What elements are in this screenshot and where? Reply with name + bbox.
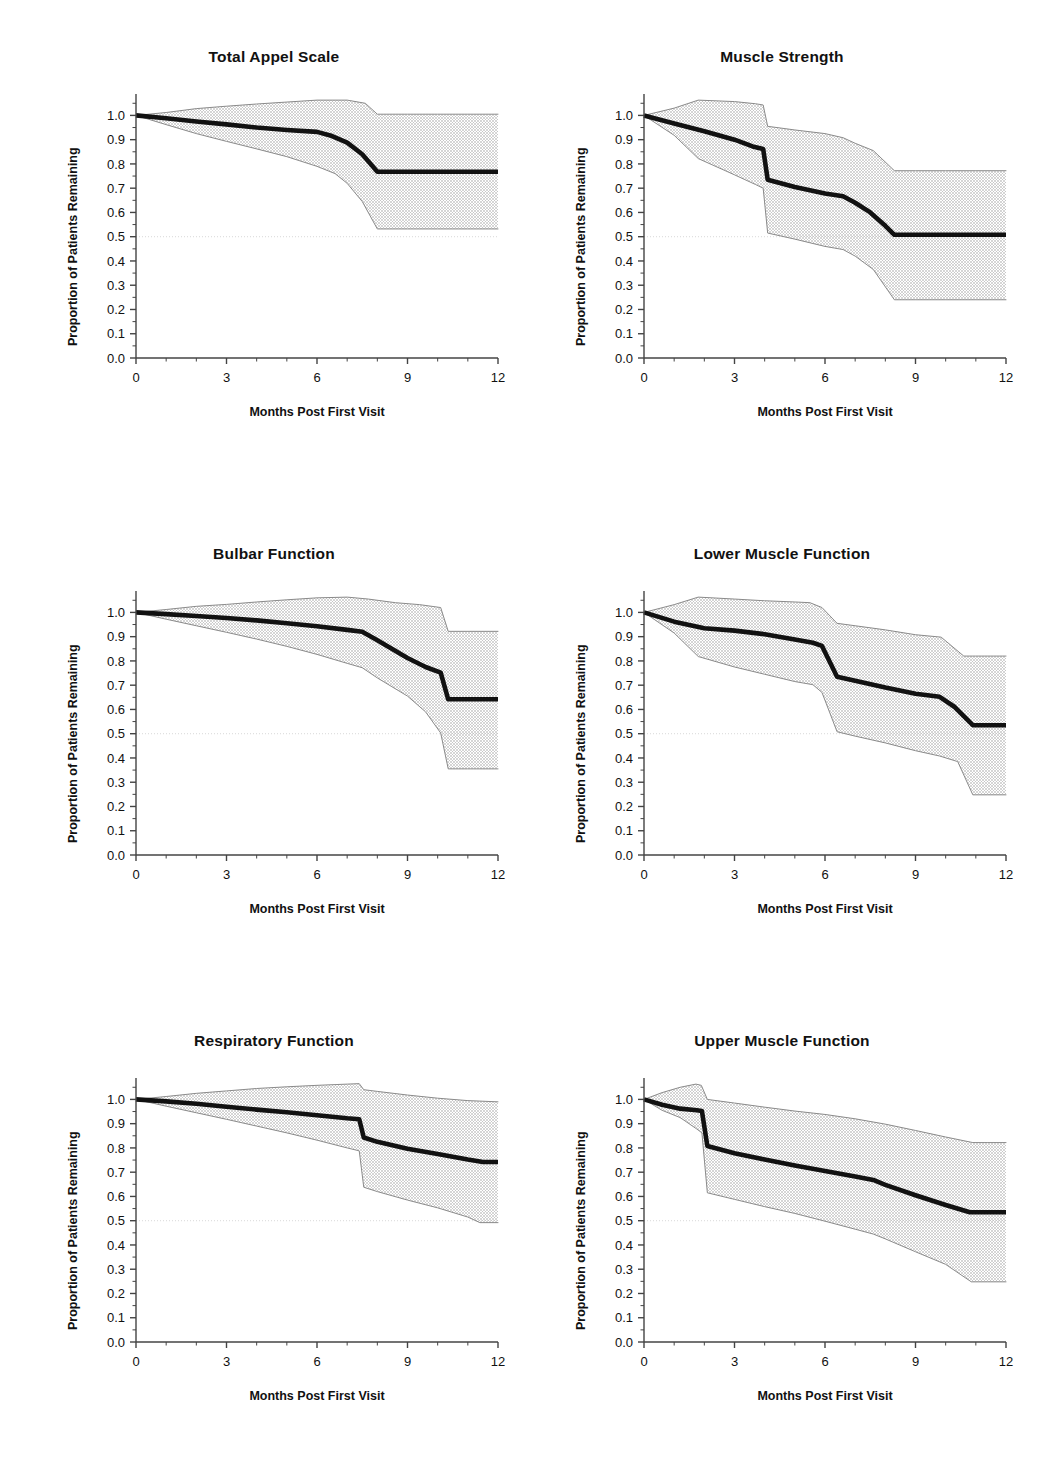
chart-panel-bulbar-function: Bulbar FunctionProportion of Patients Re… [24,545,524,965]
y-tick-label-muscle-strength-7: 0.7 [615,181,633,196]
y-tick-label-total-appel-scale-1: 0.1 [107,326,125,341]
y-tick-label-bulbar-function-7: 0.7 [107,678,125,693]
x-tick-label-bulbar-function-2: 6 [313,867,320,882]
y-tick-label-respiratory-function-4: 0.4 [107,1238,125,1253]
x-tick-label-upper-muscle-function-1: 3 [731,1354,738,1369]
x-tick-label-total-appel-scale-3: 9 [404,370,411,385]
x-tick-label-muscle-strength-2: 6 [821,370,828,385]
chart-title-bulbar-function: Bulbar Function [24,545,524,563]
confidence-band-upper-muscle-function [644,1084,1006,1282]
x-tick-label-bulbar-function-3: 9 [404,867,411,882]
y-tick-label-muscle-strength-8: 0.8 [615,157,633,172]
y-tick-label-respiratory-function-7: 0.7 [107,1165,125,1180]
x-tick-label-muscle-strength-4: 12 [999,370,1013,385]
chart-title-respiratory-function: Respiratory Function [24,1032,524,1050]
x-tick-label-muscle-strength-0: 0 [640,370,647,385]
y-tick-label-respiratory-function-5: 0.5 [107,1213,125,1228]
y-tick-label-upper-muscle-function-10: 1.0 [615,1092,633,1107]
y-tick-label-lower-muscle-function-6: 0.6 [615,702,633,717]
y-tick-label-lower-muscle-function-8: 0.8 [615,654,633,669]
y-tick-label-lower-muscle-function-0: 0.0 [615,848,633,863]
y-tick-label-lower-muscle-function-3: 0.3 [615,775,633,790]
x-tick-label-lower-muscle-function-2: 6 [821,867,828,882]
y-tick-label-muscle-strength-4: 0.4 [615,254,633,269]
y-tick-label-muscle-strength-1: 0.1 [615,326,633,341]
y-tick-label-muscle-strength-2: 0.2 [615,302,633,317]
y-tick-label-respiratory-function-8: 0.8 [107,1141,125,1156]
x-tick-label-respiratory-function-3: 9 [404,1354,411,1369]
x-tick-label-lower-muscle-function-1: 3 [731,867,738,882]
plot-area-total-appel-scale: 0.00.10.20.30.40.50.60.70.80.91.0036912 [24,78,524,468]
y-tick-label-respiratory-function-10: 1.0 [107,1092,125,1107]
chart-title-muscle-strength: Muscle Strength [532,48,1032,66]
y-tick-label-muscle-strength-0: 0.0 [615,351,633,366]
y-tick-label-respiratory-function-6: 0.6 [107,1189,125,1204]
chart-title-upper-muscle-function: Upper Muscle Function [532,1032,1032,1050]
y-tick-label-respiratory-function-9: 0.9 [107,1116,125,1131]
plot-area-lower-muscle-function: 0.00.10.20.30.40.50.60.70.80.91.0036912 [532,575,1032,965]
y-tick-label-upper-muscle-function-0: 0.0 [615,1335,633,1350]
y-tick-label-bulbar-function-10: 1.0 [107,605,125,620]
y-tick-label-respiratory-function-0: 0.0 [107,1335,125,1350]
x-tick-label-lower-muscle-function-3: 9 [912,867,919,882]
y-tick-label-total-appel-scale-9: 0.9 [107,132,125,147]
y-tick-label-lower-muscle-function-1: 0.1 [615,823,633,838]
y-tick-label-bulbar-function-1: 0.1 [107,823,125,838]
y-tick-label-upper-muscle-function-7: 0.7 [615,1165,633,1180]
y-tick-label-upper-muscle-function-2: 0.2 [615,1286,633,1301]
y-tick-label-bulbar-function-5: 0.5 [107,726,125,741]
y-tick-label-muscle-strength-10: 1.0 [615,108,633,123]
y-tick-label-upper-muscle-function-1: 0.1 [615,1310,633,1325]
chart-title-total-appel-scale: Total Appel Scale [24,48,524,66]
y-tick-label-total-appel-scale-5: 0.5 [107,229,125,244]
y-tick-label-total-appel-scale-10: 1.0 [107,108,125,123]
plot-area-bulbar-function: 0.00.10.20.30.40.50.60.70.80.91.0036912 [24,575,524,965]
y-tick-label-total-appel-scale-3: 0.3 [107,278,125,293]
x-tick-label-upper-muscle-function-4: 12 [999,1354,1013,1369]
y-tick-label-muscle-strength-6: 0.6 [615,205,633,220]
y-tick-label-upper-muscle-function-4: 0.4 [615,1238,633,1253]
x-tick-label-lower-muscle-function-4: 12 [999,867,1013,882]
y-tick-label-bulbar-function-8: 0.8 [107,654,125,669]
x-tick-label-total-appel-scale-4: 12 [491,370,505,385]
x-tick-label-bulbar-function-1: 3 [223,867,230,882]
plot-area-respiratory-function: 0.00.10.20.30.40.50.60.70.80.91.0036912 [24,1062,524,1452]
chart-panel-total-appel-scale: Total Appel ScaleProportion of Patients … [24,48,524,468]
x-tick-label-muscle-strength-3: 9 [912,370,919,385]
y-tick-label-muscle-strength-3: 0.3 [615,278,633,293]
y-tick-label-respiratory-function-2: 0.2 [107,1286,125,1301]
chart-title-lower-muscle-function: Lower Muscle Function [532,545,1032,563]
y-tick-label-muscle-strength-5: 0.5 [615,229,633,244]
y-tick-label-bulbar-function-2: 0.2 [107,799,125,814]
y-tick-label-lower-muscle-function-10: 1.0 [615,605,633,620]
y-tick-label-total-appel-scale-0: 0.0 [107,351,125,366]
y-tick-label-respiratory-function-3: 0.3 [107,1262,125,1277]
x-tick-label-respiratory-function-2: 6 [313,1354,320,1369]
chart-panel-muscle-strength: Muscle StrengthProportion of Patients Re… [532,48,1032,468]
chart-panel-upper-muscle-function: Upper Muscle FunctionProportion of Patie… [532,1032,1032,1452]
y-tick-label-upper-muscle-function-8: 0.8 [615,1141,633,1156]
y-tick-label-upper-muscle-function-6: 0.6 [615,1189,633,1204]
x-tick-label-muscle-strength-1: 3 [731,370,738,385]
x-tick-label-upper-muscle-function-0: 0 [640,1354,647,1369]
y-tick-label-lower-muscle-function-2: 0.2 [615,799,633,814]
x-tick-label-total-appel-scale-0: 0 [132,370,139,385]
x-tick-label-respiratory-function-4: 12 [491,1354,505,1369]
y-tick-label-total-appel-scale-7: 0.7 [107,181,125,196]
figure-canvas: Total Appel ScaleProportion of Patients … [0,0,1048,1464]
plot-area-muscle-strength: 0.00.10.20.30.40.50.60.70.80.91.0036912 [532,78,1032,468]
y-tick-label-lower-muscle-function-4: 0.4 [615,751,633,766]
y-tick-label-respiratory-function-1: 0.1 [107,1310,125,1325]
y-tick-label-upper-muscle-function-9: 0.9 [615,1116,633,1131]
x-tick-label-lower-muscle-function-0: 0 [640,867,647,882]
y-tick-label-upper-muscle-function-3: 0.3 [615,1262,633,1277]
y-tick-label-bulbar-function-4: 0.4 [107,751,125,766]
plot-area-upper-muscle-function: 0.00.10.20.30.40.50.60.70.80.91.0036912 [532,1062,1032,1452]
x-tick-label-respiratory-function-0: 0 [132,1354,139,1369]
y-tick-label-total-appel-scale-8: 0.8 [107,157,125,172]
x-tick-label-total-appel-scale-2: 6 [313,370,320,385]
x-tick-label-total-appel-scale-1: 3 [223,370,230,385]
chart-panel-lower-muscle-function: Lower Muscle FunctionProportion of Patie… [532,545,1032,965]
x-tick-label-bulbar-function-4: 12 [491,867,505,882]
y-tick-label-total-appel-scale-6: 0.6 [107,205,125,220]
